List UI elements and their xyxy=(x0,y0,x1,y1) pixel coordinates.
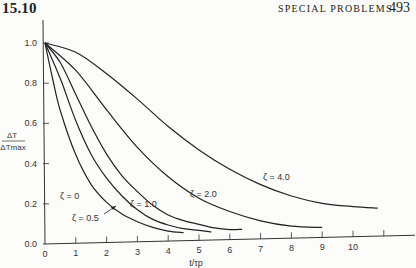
x-tick-label: 4 xyxy=(166,246,171,256)
curve-label: ζ = 0 xyxy=(60,191,79,201)
curve-label: ζ = 4.0 xyxy=(263,172,290,182)
y-axis-label: ΔTΔTmax xyxy=(0,131,25,152)
x-tick-label: 10 xyxy=(348,242,358,252)
x-axis xyxy=(43,235,415,244)
y-tick-label: 0.6 xyxy=(24,118,37,128)
y-tick-label: 0.8 xyxy=(24,78,37,88)
x-tick-label: 7 xyxy=(258,244,263,254)
x-tick-label: 5 xyxy=(196,245,201,255)
x-tick-label: 1 xyxy=(73,248,78,258)
y-tick-label: 0.2 xyxy=(24,199,37,209)
curve-zeta-4 xyxy=(45,43,378,208)
curve-label: ζ = 0.5 xyxy=(72,213,99,223)
curve-zeta-3 xyxy=(45,43,322,227)
x-tick-label: 3 xyxy=(135,247,140,257)
curve-label: ζ = 1.0 xyxy=(130,199,157,209)
svg-text:ΔT: ΔT xyxy=(7,131,17,140)
x-tick-label: 2 xyxy=(104,248,109,258)
y-tick-label: 0.0 xyxy=(24,239,37,249)
curve-zeta-0 xyxy=(45,43,184,233)
y-axis xyxy=(43,20,45,244)
x-tick-label: 8 xyxy=(289,243,294,253)
x-tick-label: 9 xyxy=(320,242,325,252)
x-tick-label: 6 xyxy=(227,245,232,255)
x-axis-label: t/τp xyxy=(189,258,203,268)
y-tick-label: 1.0 xyxy=(24,38,37,48)
y-tick-label: 0.4 xyxy=(24,159,37,169)
book-page: 15.10 SPECIAL PROBLEMS 493 0.00.20.40.60… xyxy=(0,0,416,268)
x-tick-label: 0 xyxy=(42,249,47,259)
curve-label: ζ = 2.0 xyxy=(190,189,217,199)
curve-labels: ζ = 0ζ = 0.5ζ = 1.0ζ = 2.0ζ = 4.0 xyxy=(60,172,290,223)
decay-curves-chart: 0.00.20.40.60.81.0012345678910t/τpΔTΔTma… xyxy=(0,0,416,268)
svg-text:ΔTmax: ΔTmax xyxy=(0,143,25,152)
curves xyxy=(45,43,378,233)
